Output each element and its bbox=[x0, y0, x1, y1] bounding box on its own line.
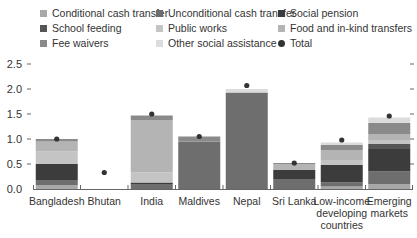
x-category-label: Sri Lanka bbox=[272, 195, 317, 207]
bar-segment bbox=[368, 184, 410, 189]
bar-india bbox=[131, 111, 173, 189]
x-category-label: countries bbox=[320, 219, 363, 231]
bar-segment bbox=[321, 183, 363, 187]
x-category-label: India bbox=[140, 195, 163, 207]
total-marker bbox=[387, 113, 392, 118]
total-marker bbox=[54, 136, 59, 141]
bar-segment bbox=[36, 180, 78, 185]
x-category-label: Bhutan bbox=[88, 195, 121, 207]
y-tick-label: 1.0 bbox=[7, 133, 22, 145]
y-tick-label: 0.0 bbox=[7, 183, 22, 195]
bar-bhutan bbox=[102, 170, 107, 175]
total-marker bbox=[339, 137, 344, 142]
x-category-label: Nepal bbox=[233, 195, 260, 207]
total-marker bbox=[149, 111, 154, 116]
x-category-label: Maldives bbox=[179, 195, 220, 207]
bar-bangladesh bbox=[36, 136, 78, 189]
y-tick-label: 0.5 bbox=[7, 158, 22, 170]
bar-segment bbox=[131, 184, 173, 189]
x-category-label: Emerging bbox=[367, 195, 412, 207]
bar-segment bbox=[131, 120, 173, 173]
y-tick-label: 1.5 bbox=[7, 108, 22, 120]
bar-nepal bbox=[226, 83, 268, 189]
bar-segment bbox=[36, 142, 78, 152]
bar-low-income-developing-countries bbox=[321, 137, 363, 189]
bar-segment bbox=[36, 185, 78, 189]
x-category-label: markets bbox=[371, 207, 408, 219]
bar-segment bbox=[36, 152, 78, 165]
bar-segment bbox=[321, 160, 363, 165]
bar-segment bbox=[131, 173, 173, 183]
x-category-label: developing bbox=[316, 207, 367, 219]
bar-segment bbox=[178, 142, 220, 190]
bar-segment bbox=[36, 164, 78, 180]
bar-segment bbox=[368, 149, 410, 172]
bar-emerging-markets bbox=[368, 113, 410, 189]
bar-segment bbox=[321, 145, 363, 150]
bar-segment bbox=[273, 170, 315, 179]
x-axis: BangladeshBhutanIndiaMaldivesNepalSri La… bbox=[29, 185, 413, 231]
bar-maldives bbox=[178, 134, 220, 189]
bar-segment bbox=[321, 150, 363, 160]
bar-segment bbox=[273, 179, 315, 189]
bar-segment bbox=[368, 123, 410, 134]
bars-group bbox=[36, 83, 411, 189]
bar-segment bbox=[368, 134, 410, 140]
bar-segment bbox=[368, 172, 410, 185]
total-marker bbox=[244, 83, 249, 88]
total-marker bbox=[292, 160, 297, 165]
bar-segment bbox=[226, 93, 268, 190]
total-marker bbox=[197, 134, 202, 139]
bar-segment bbox=[321, 187, 363, 190]
x-category-label: Bangladesh bbox=[29, 195, 85, 207]
bar-segment bbox=[368, 144, 410, 149]
bar-segment bbox=[368, 140, 410, 144]
bar-segment bbox=[131, 183, 173, 185]
total-marker bbox=[102, 170, 107, 175]
stacked-bar-chart: 0.00.51.01.52.02.5 BangladeshBhutanIndia… bbox=[0, 0, 417, 238]
bar-segment bbox=[321, 143, 363, 146]
bar-segment bbox=[321, 165, 363, 183]
bar-sri-lanka bbox=[273, 160, 315, 189]
bar-segment bbox=[226, 89, 268, 93]
y-tick-label: 2.5 bbox=[7, 58, 22, 70]
y-tick-label: 2.0 bbox=[7, 83, 22, 95]
x-category-label: Low-income bbox=[313, 195, 370, 207]
